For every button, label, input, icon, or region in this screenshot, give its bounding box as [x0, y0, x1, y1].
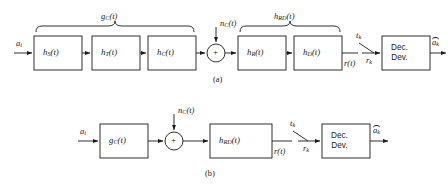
- decdev-line2-a: Dev.: [391, 53, 408, 63]
- brace-label-hrd: hRD(t): [274, 12, 295, 22]
- adder-plus-a: +: [213, 48, 218, 57]
- adder-plus-b: +: [171, 136, 176, 145]
- decdev-line1-b: Dec.: [331, 131, 348, 141]
- brace-gc: [36, 21, 194, 32]
- sampler-time-a: tk: [356, 31, 361, 41]
- noise-label-a: nC(t): [220, 19, 236, 29]
- sampler-blade-a: [359, 43, 374, 53]
- caption-a: (a): [213, 76, 222, 84]
- block-label-hc: hC(t): [157, 48, 174, 58]
- sample-value-a: rk: [366, 56, 372, 66]
- output-label-b: ak: [373, 126, 380, 136]
- sampler-blade-b: [293, 131, 308, 141]
- block-label-gc-b: gC(t): [109, 136, 126, 146]
- decision-device-label-a: Dec. Dev.: [391, 43, 408, 62]
- sampler-time-b: tk: [290, 119, 295, 129]
- block-label-hs: hS(t): [43, 48, 59, 58]
- block-label-hr: hR(t): [247, 48, 264, 58]
- decision-device-label-b: Dec. Dev.: [331, 131, 348, 150]
- brace-hrd: [240, 21, 340, 32]
- figure-root: ai hS(t) hT(t) hC(t) hR(t) hD(t) gC(t) h…: [0, 0, 448, 185]
- noise-label-b: nC(t): [178, 106, 194, 116]
- signal-rt-a: r(t): [344, 59, 355, 68]
- decdev-line2-b: Dev.: [331, 141, 348, 151]
- input-label-b: ai: [80, 127, 86, 137]
- output-label-a: ak: [432, 38, 439, 48]
- block-label-hrd-b: hRD(t): [219, 136, 240, 146]
- decdev-line1-a: Dec.: [391, 43, 408, 53]
- brace-label-gc: gC(t): [101, 12, 117, 22]
- sample-value-b: rk: [303, 144, 309, 154]
- caption-b: (b): [205, 170, 215, 178]
- block-label-hd: hD(t): [303, 48, 320, 58]
- input-label-a: ai: [16, 39, 22, 49]
- block-label-ht: hT(t): [101, 48, 117, 58]
- signal-rt-b: r(t): [274, 147, 285, 156]
